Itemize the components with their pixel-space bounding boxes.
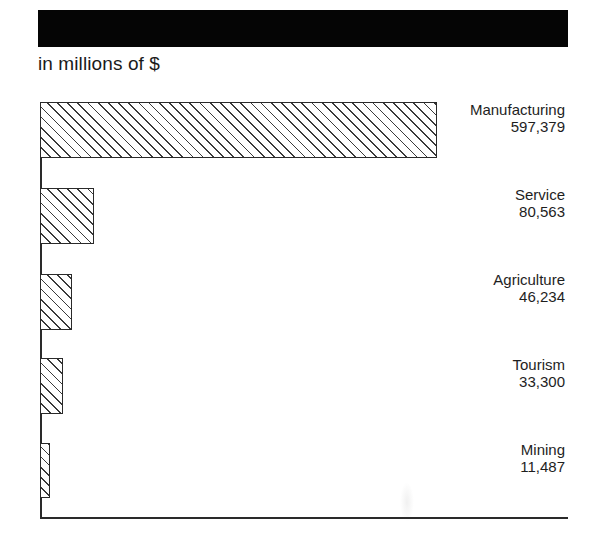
- category-label: Tourism: [512, 356, 565, 373]
- value-label: 597,379: [470, 118, 565, 135]
- bar-service: [40, 188, 94, 244]
- bar-manufacturing: [40, 102, 437, 158]
- label-mining: Mining 11,487: [520, 441, 565, 475]
- bar-tourism: [40, 358, 63, 414]
- bar-agriculture: [40, 274, 72, 330]
- scan-artifact: [400, 482, 414, 522]
- category-label: Mining: [520, 441, 565, 458]
- category-label: Manufacturing: [470, 101, 565, 118]
- label-tourism: Tourism 33,300: [512, 356, 565, 390]
- bar-chart-plot: Manufacturing 597,379 Service 80,563 Agr…: [0, 0, 595, 546]
- label-service: Service 80,563: [515, 186, 565, 220]
- value-label: 46,234: [493, 288, 565, 305]
- value-label: 11,487: [520, 458, 565, 475]
- x-axis-line: [40, 517, 568, 519]
- category-label: Agriculture: [493, 271, 565, 288]
- category-label: Service: [515, 186, 565, 203]
- label-agriculture: Agriculture 46,234: [493, 271, 565, 305]
- label-manufacturing: Manufacturing 597,379: [470, 101, 565, 135]
- bar-mining: [40, 443, 50, 498]
- value-label: 33,300: [512, 373, 565, 390]
- value-label: 80,563: [515, 203, 565, 220]
